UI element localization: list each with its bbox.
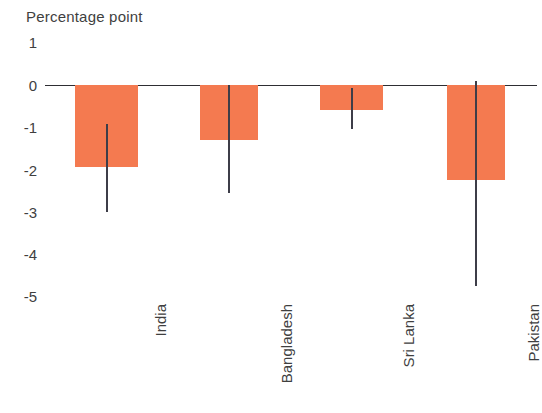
plot-area: 1 0 -1 -2 -3 -4 -5 [45,0,537,300]
y-tick-label-m5: -5 [24,288,37,305]
category-label-sri-lanka-text: Sri Lanka [401,304,416,367]
category-label-pakistan: Pakistan [526,304,541,362]
y-tick-label-1: 1 [29,34,37,51]
errorbar-pakistan [475,81,477,287]
category-label-india: India [153,304,168,337]
errorbar-india [106,124,108,212]
y-tick-label-m4: -4 [24,246,37,263]
category-label-bangladesh-text: Bangladesh [279,304,294,383]
y-tick-label-m2: -2 [24,162,37,179]
category-label-india-text: India [153,304,168,337]
y-tick-label-m3: -3 [24,204,37,221]
category-label-pakistan-text: Pakistan [526,304,541,362]
category-label-bangladesh: Bangladesh [279,304,294,383]
errorbar-bangladesh [228,85,230,193]
category-label-sri-lanka: Sri Lanka [401,304,416,367]
errorbar-sri-lanka [351,88,353,129]
y-tick-label-0: 0 [29,77,37,94]
y-tick-label-m1: -1 [24,119,37,136]
category-axis: India Bangladesh Sri Lanka Pakistan [45,300,537,413]
